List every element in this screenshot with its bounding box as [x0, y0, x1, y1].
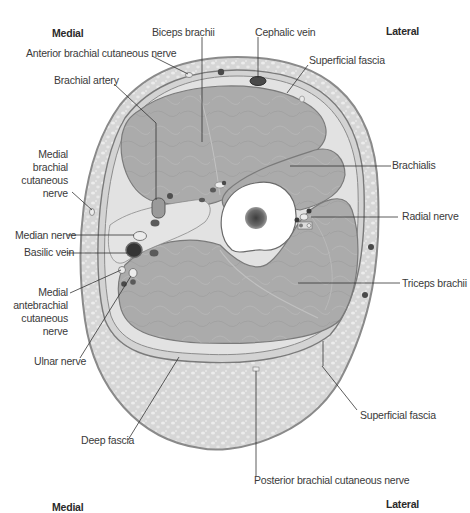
orientation-label-medial-top: Medial	[52, 27, 83, 40]
label-brachialis: Brachialis	[392, 159, 436, 172]
label-posterior-brachial-cutaneous-nerve: Posterior brachial cutaneous nerve	[254, 474, 409, 487]
orientation-label-medial-bottom: Medial	[52, 501, 83, 513]
posterior-brachial-cutaneous-nerve	[253, 367, 259, 371]
radial-nerve	[300, 214, 308, 220]
label-cephalic-vein: Cephalic vein	[255, 26, 315, 39]
label-ulnar-nerve: Ulnar nerve	[34, 355, 86, 368]
orientation-label-lateral-top: Lateral	[386, 25, 419, 38]
label-superficial-fascia-bottom: Superficial fascia	[360, 409, 436, 422]
orientation-label-lateral-bottom: Lateral	[386, 498, 419, 511]
bone-marrow	[245, 207, 267, 229]
label-deep-fascia: Deep fascia	[81, 434, 134, 447]
label-radial-nerve: Radial nerve	[402, 210, 459, 223]
arm-cross-section-diagram: Medial Lateral Medial Lateral Biceps bra…	[0, 0, 470, 513]
label-medial-antebrachial-cutaneous-nerve: Medial antebrachial cutaneous nerve	[4, 286, 68, 338]
label-biceps-brachii: Biceps brachii	[152, 26, 215, 39]
label-brachial-artery: Brachial artery	[54, 74, 119, 87]
label-basilic-vein: Basilic vein	[24, 246, 74, 259]
label-triceps-brachii: Triceps brachii	[402, 277, 467, 290]
label-superficial-fascia-top: Superficial fascia	[309, 54, 385, 67]
brachial-artery	[152, 198, 165, 218]
small-vessel-top	[218, 69, 224, 75]
basilic-vein	[126, 243, 142, 258]
ulnar-nerve	[129, 269, 137, 278]
medial-antebrachial-cutaneous-nerve	[119, 267, 126, 274]
median-nerve	[134, 232, 147, 241]
label-anterior-brachial-cutaneous-nerve: Anterior brachial cutaneous nerve	[26, 47, 176, 60]
label-medial-brachial-cutaneous-nerve: Medial brachial cutaneous nerve	[10, 148, 68, 200]
label-median-nerve: Median nerve	[15, 229, 76, 242]
